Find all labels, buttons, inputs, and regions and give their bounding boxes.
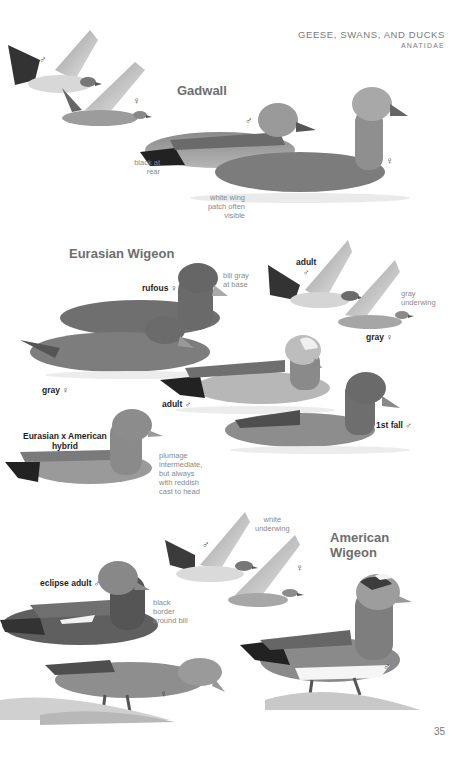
note-black-at-rear: black at rear bbox=[110, 158, 160, 176]
american-flying-male-symbol: ♂ bbox=[202, 540, 210, 550]
label-flying-gray-female: gray ♀ bbox=[366, 332, 393, 342]
note-black-border-bill: black border around bill bbox=[153, 598, 188, 625]
label-gray-female: gray ♀ bbox=[42, 385, 69, 395]
label-eclipse-adult-male: eclipse adult ♂ bbox=[40, 578, 100, 588]
family-name: ANATIDAE bbox=[298, 42, 445, 49]
gadwall-flying-male-illustration bbox=[8, 30, 102, 112]
duck-illustrations bbox=[0, 0, 467, 766]
page-number: 35 bbox=[434, 726, 445, 737]
eurasian-wigeon-rufous-female-illustration bbox=[60, 263, 228, 336]
american-wigeon-eclipse-male-illustration bbox=[0, 561, 158, 645]
note-bill-gray: bill gray at base bbox=[223, 271, 249, 289]
note-gray-underwing: gray underwing bbox=[401, 289, 436, 307]
american-wigeon-flying-male-illustration bbox=[165, 512, 258, 582]
label-rufous-female: rufous ♀ bbox=[142, 283, 177, 293]
american-wigeon-female-illustration bbox=[0, 658, 225, 725]
label-adult-male: adult ♂ bbox=[162, 399, 191, 409]
gadwall-flying-female-symbol: ♀ bbox=[133, 96, 141, 106]
label-hybrid: Eurasian x American hybrid bbox=[23, 431, 107, 451]
gadwall-swim-female-symbol: ♀ bbox=[386, 156, 394, 166]
species-heading-american-wigeon: American Wigeon bbox=[330, 530, 389, 560]
label-first-fall-male: 1st fall ♂ bbox=[376, 420, 412, 430]
note-white-wing-patch: white wing patch often visible bbox=[185, 193, 245, 220]
label-flying-adult-male: adult ♂ bbox=[296, 257, 316, 277]
running-head: GEESE, SWANS, AND DUCKS ANATIDAE bbox=[298, 29, 445, 49]
gadwall-swim-male-symbol: ♂ bbox=[245, 116, 253, 126]
note-hybrid-plumage: plumage intermediate, but always with re… bbox=[159, 451, 202, 496]
note-white-underwing: white underwing bbox=[255, 515, 290, 533]
american-female-symbol: ♀ bbox=[160, 689, 168, 699]
species-heading-gadwall: Gadwall bbox=[177, 83, 227, 98]
section-title: GEESE, SWANS, AND DUCKS bbox=[298, 29, 445, 40]
american-standing-male-symbol: ♂ bbox=[383, 662, 391, 672]
gadwall-flying-male-symbol: ♂ bbox=[39, 55, 47, 65]
american-flying-female-symbol: ♀ bbox=[296, 563, 304, 573]
species-heading-eurasian-wigeon: Eurasian Wigeon bbox=[69, 246, 174, 261]
